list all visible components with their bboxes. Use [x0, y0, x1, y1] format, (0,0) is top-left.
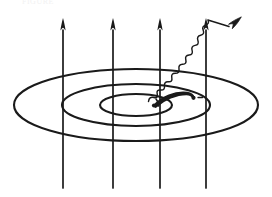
arc-start-dot — [152, 103, 156, 107]
field-line-group — [60, 18, 208, 188]
middle-orbit-ellipse — [62, 84, 210, 126]
figure-container: FIGURE — [0, 0, 272, 197]
outer-orbit-ellipse — [14, 69, 258, 141]
physics-diagram — [0, 0, 272, 197]
field-line-arrow-4 — [203, 18, 208, 188]
arc-end-dot — [191, 96, 195, 100]
inner-orbit-ellipse — [100, 94, 172, 116]
orbit-ellipse-group — [14, 69, 258, 141]
photon-arrowhead — [229, 17, 241, 29]
field-line-arrow-2 — [110, 18, 115, 188]
